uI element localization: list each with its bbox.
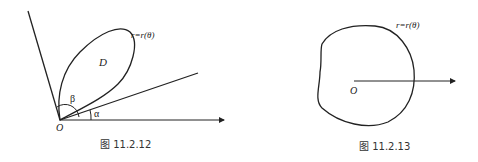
- diagram-canvas: r=r(θ) D β α O 图 11.2.12 r=r(θ) O 图 11.2…: [0, 0, 478, 162]
- figure-caption: 图 11.2.13: [359, 141, 410, 152]
- figure-11-2-12: r=r(θ) D β α O 图 11.2.12: [28, 11, 224, 150]
- region-label: D: [98, 56, 107, 68]
- curve-label: r=r(θ): [396, 20, 420, 30]
- curve-label: r=r(θ): [131, 30, 155, 40]
- alpha-label: α: [94, 108, 100, 119]
- ray-alpha: [60, 73, 198, 120]
- beta-label: β: [70, 93, 75, 104]
- closed-curve-r-theta: [318, 26, 414, 126]
- figure-11-2-13: r=r(θ) O 图 11.2.13: [318, 20, 455, 152]
- origin-label: O: [350, 85, 357, 96]
- figure-caption: 图 11.2.12: [100, 139, 151, 150]
- origin-label: O: [56, 122, 63, 133]
- curve-r-theta: [59, 29, 135, 120]
- ray-beta: [28, 11, 60, 120]
- angle-arc-alpha: [90, 110, 91, 120]
